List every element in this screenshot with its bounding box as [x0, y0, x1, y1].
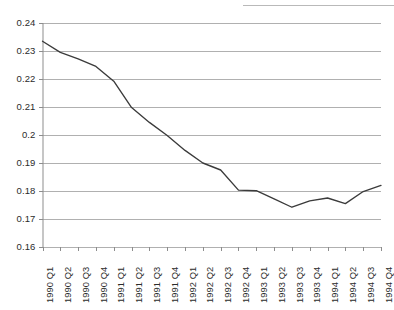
x-tick-label: 1992 Q1: [189, 267, 198, 303]
x-tick-label: 1993 Q3: [296, 267, 305, 303]
x-tick-label: 1992 Q2: [206, 267, 215, 303]
x-tick-label: 1990 Q3: [82, 267, 91, 303]
x-tick-label: 1991 Q3: [153, 267, 162, 303]
x-tick-label: 1994 Q3: [367, 267, 376, 303]
chart-figure: 0.160.170.180.190.20.210.220.230.24 1990…: [0, 0, 394, 310]
x-tick-label: 1994 Q4: [385, 267, 394, 303]
x-tick-label: 1994 Q1: [331, 267, 340, 303]
x-tick-label: 1990 Q2: [64, 267, 73, 303]
x-tick-label: 1993 Q1: [260, 267, 269, 303]
x-axis-tick-labels: 1990 Q11990 Q21990 Q31990 Q41991 Q11991 …: [0, 0, 394, 310]
x-tick-label: 1993 Q2: [278, 267, 287, 303]
x-tick-label: 1991 Q2: [135, 267, 144, 303]
x-tick-label: 1992 Q3: [224, 267, 233, 303]
x-tick-label: 1991 Q1: [117, 267, 126, 303]
x-tick-label: 1993 Q4: [313, 267, 322, 303]
x-tick-label: 1994 Q2: [349, 267, 358, 303]
x-tick-label: 1990 Q4: [100, 267, 109, 303]
x-tick-label: 1990 Q1: [46, 267, 55, 303]
x-tick-label: 1991 Q4: [171, 267, 180, 303]
x-tick-label: 1992 Q4: [242, 267, 251, 303]
